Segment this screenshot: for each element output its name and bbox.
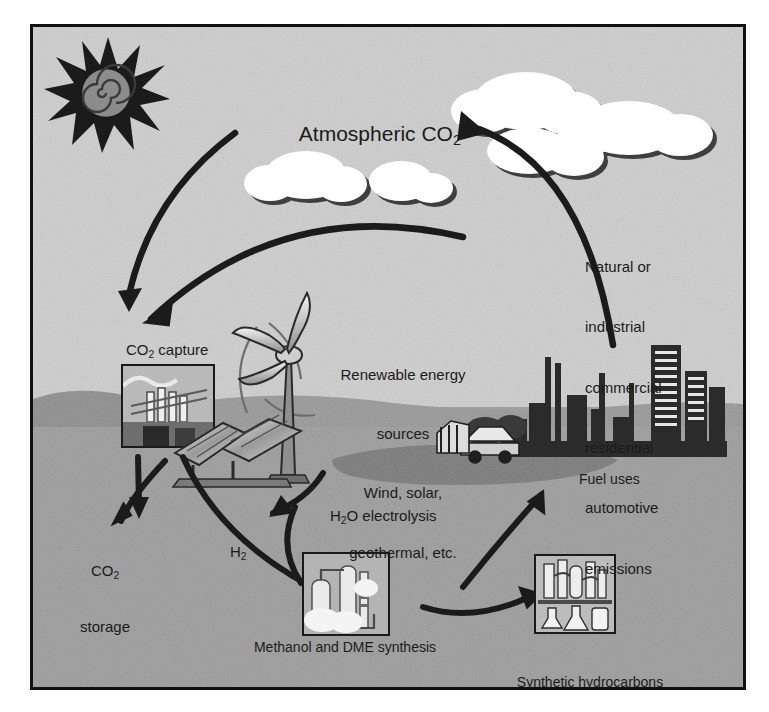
atmospheric-co2-label: Atmospheric CO2 (265, 97, 461, 173)
renewable-energy-label: Renewable energy sources Wind, solar, ge… (305, 325, 501, 602)
co2-capture-label: CO2 capture (101, 323, 208, 378)
diagram-frame: Atmospheric CO2 CO2 capture CO2 storage … (30, 24, 746, 690)
co2-storage-line1: CO2 (63, 562, 147, 582)
figure-canvas: Atmospheric CO2 CO2 capture CO2 storage … (0, 0, 769, 712)
co2-storage-label: CO2 storage (63, 527, 147, 671)
emissions-label: Natural or industrial commercial residen… (585, 217, 715, 619)
synthetic-products-label: Synthetic hydrocarbons and their product… (471, 635, 709, 690)
co2-storage-line2: storage (63, 618, 147, 636)
h2-label: H2 (205, 525, 247, 580)
methanol-synthesis-label: Methanol and DME synthesis (219, 639, 471, 656)
